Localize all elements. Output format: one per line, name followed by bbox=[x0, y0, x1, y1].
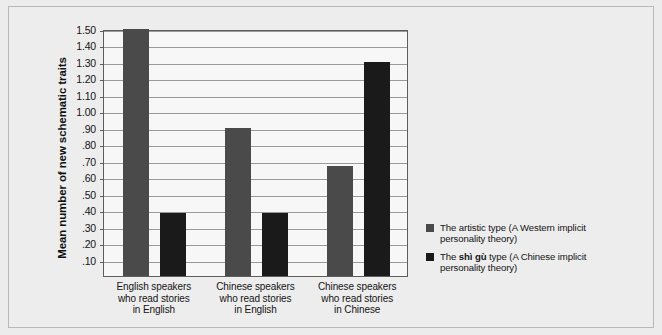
x-category-label-line: who read stories bbox=[205, 293, 307, 305]
bar bbox=[262, 213, 288, 276]
chart-legend: The artistic type (A Western implicitper… bbox=[426, 222, 641, 280]
legend-swatch-icon bbox=[426, 224, 434, 232]
legend-swatch-icon bbox=[426, 253, 434, 261]
x-category-label: Chinese speakerswho read storiesin Chine… bbox=[306, 281, 408, 316]
bar bbox=[327, 166, 353, 276]
y-axis-tick-labels: 1.501.401.301.201.101.00.90.80.70.60.50.… bbox=[58, 30, 100, 277]
y-tick-label: 1.40 bbox=[76, 40, 96, 52]
legend-label-emphasis: shì gù bbox=[459, 251, 487, 262]
bar bbox=[364, 62, 390, 276]
bar bbox=[225, 128, 251, 276]
x-axis-category-labels: English speakerswho read storiesin Engli… bbox=[103, 281, 408, 327]
y-tick-label: 1.20 bbox=[76, 73, 96, 85]
x-category-label-line: who read stories bbox=[103, 293, 205, 305]
bars-group bbox=[104, 31, 407, 276]
y-tick-label: 1.10 bbox=[76, 90, 96, 102]
y-tick-label: .70 bbox=[82, 156, 96, 168]
x-category-label-line: Chinese speakers bbox=[205, 281, 307, 293]
legend-item: The artistic type (A Western implicitper… bbox=[426, 222, 641, 245]
x-category-label-line: who read stories bbox=[306, 293, 408, 305]
x-category-label-line: in English bbox=[205, 304, 307, 316]
legend-label: The artistic type (A Western implicitper… bbox=[440, 222, 586, 245]
x-category-label-line: Chinese speakers bbox=[306, 281, 408, 293]
x-category-label-line: in English bbox=[103, 304, 205, 316]
y-tick-label: 1.00 bbox=[76, 106, 96, 118]
bar bbox=[160, 213, 186, 276]
y-tick-label: .10 bbox=[82, 255, 96, 267]
x-category-label-line: in Chinese bbox=[306, 304, 408, 316]
legend-item: The shì gù type (A Chinese implicitperso… bbox=[426, 251, 641, 274]
y-tick-label: .50 bbox=[82, 189, 96, 201]
figure-container: Mean number of new schematic traits 1.50… bbox=[0, 0, 662, 335]
legend-label: The shì gù type (A Chinese implicitperso… bbox=[440, 251, 586, 274]
y-tick-label: .30 bbox=[82, 222, 96, 234]
x-category-label: English speakerswho read storiesin Engli… bbox=[103, 281, 205, 316]
bar bbox=[123, 29, 149, 276]
y-tick-label: .80 bbox=[82, 139, 96, 151]
y-tick-label: 1.30 bbox=[76, 57, 96, 69]
x-category-label-line: English speakers bbox=[103, 281, 205, 293]
plot-area bbox=[103, 30, 408, 277]
y-tick-label: .20 bbox=[82, 238, 96, 250]
y-tick-label: 1.50 bbox=[76, 24, 96, 36]
y-tick-label: .40 bbox=[82, 205, 96, 217]
x-category-label: Chinese speakerswho read storiesin Engli… bbox=[205, 281, 307, 316]
y-tick-label: .90 bbox=[82, 123, 96, 135]
y-tick-label: .60 bbox=[82, 172, 96, 184]
